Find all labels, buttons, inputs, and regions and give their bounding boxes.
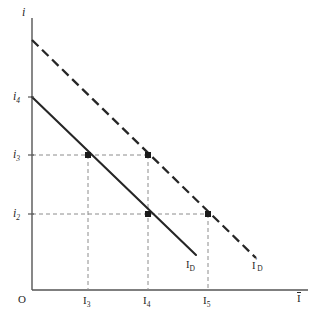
x-tick-label-I5-sub: 5 bbox=[207, 300, 211, 309]
origin-label-text: O bbox=[18, 293, 26, 305]
curve-label-investment-demand: ID bbox=[186, 260, 195, 271]
marker-i2-I4 bbox=[145, 211, 151, 217]
y-tick-label-i4-sub: 4 bbox=[16, 96, 20, 105]
x-tick-label-I4: I4 bbox=[143, 295, 150, 306]
x-axis-label: I bbox=[297, 292, 301, 305]
marker-i3-I3 bbox=[85, 152, 91, 158]
guide-lines bbox=[32, 155, 208, 290]
x-tick-label-I5: I5 bbox=[203, 295, 210, 306]
curve-label-investment-demand-shifted: I′D bbox=[252, 258, 263, 271]
axis-ticks bbox=[28, 97, 34, 214]
y-tick-label-i3-sub: 3 bbox=[16, 154, 20, 163]
y-axis-label: i bbox=[22, 6, 25, 18]
investment-demand-chart: i I O i4 i3 i2 I3 I4 I5 ID I′D bbox=[0, 0, 315, 320]
y-tick-label-i3: i3 bbox=[13, 148, 20, 160]
y-axis-label-text: i bbox=[22, 5, 25, 19]
x-tick-label-I3: I3 bbox=[83, 295, 90, 306]
curve-investment-demand-shifted bbox=[32, 40, 256, 258]
marker-i3-I4 bbox=[145, 152, 151, 158]
curve-label-investment-demand-sub: D bbox=[190, 264, 195, 273]
y-tick-label-i2-sub: 2 bbox=[16, 213, 20, 222]
curve-label-investment-demand-text: I bbox=[186, 259, 190, 270]
x-tick-label-I3-sub: 3 bbox=[87, 300, 91, 309]
curve-label-shifted-sub: D bbox=[257, 264, 262, 273]
origin-label: O bbox=[18, 294, 26, 305]
x-axis-label-text: I bbox=[297, 292, 301, 305]
y-tick-label-i4: i4 bbox=[13, 90, 20, 102]
x-tick-label-I4-sub: 4 bbox=[147, 300, 151, 309]
y-tick-label-i2: i2 bbox=[13, 207, 20, 219]
chart-plot-area bbox=[0, 0, 315, 320]
marker-i2-I5 bbox=[205, 211, 211, 217]
